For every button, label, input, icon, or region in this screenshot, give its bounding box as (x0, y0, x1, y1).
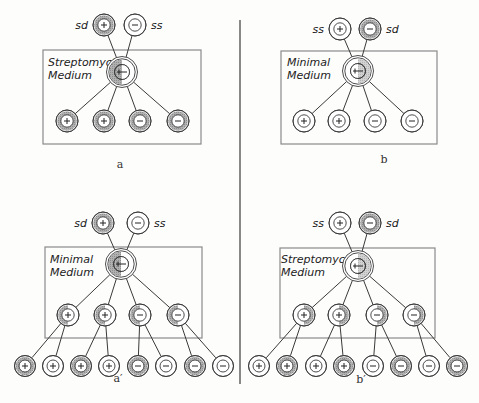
daughter-cell (293, 110, 315, 132)
parent-cell-sd (93, 14, 115, 36)
panel-label: a (117, 158, 124, 171)
lineage-line (108, 87, 117, 111)
strain-label-ss: ss (313, 23, 325, 36)
lineage-line (344, 233, 352, 252)
granddaughter-cell (213, 356, 234, 377)
granddaughter-cell (249, 356, 270, 377)
lineage-line (321, 325, 335, 356)
strain-label-sd: sd (386, 23, 400, 36)
strain-label-ss: ss (313, 217, 325, 230)
lineage-line (374, 326, 376, 355)
daughter-cell (129, 110, 151, 132)
genetics-cross-figure: StreptomycinMediumsdssaMinimalMediumsssd… (0, 0, 479, 403)
lineage-line (138, 326, 139, 355)
panel-label: b (380, 153, 387, 166)
lineage-line (126, 279, 136, 305)
daughter-cell (56, 110, 78, 132)
lineage-line (266, 323, 296, 358)
lineage-line (56, 326, 65, 356)
parent-cell-ss (124, 14, 146, 36)
daughter-cell (57, 304, 79, 326)
lineage-line (417, 326, 426, 356)
granddaughter-cell (15, 356, 36, 377)
granddaughter-cell (447, 356, 468, 377)
granddaughter-cell (306, 356, 327, 377)
lineage-line (126, 36, 132, 57)
lineage-line (363, 86, 371, 111)
daughter-cell (364, 110, 386, 132)
parent-cell-sd (359, 212, 381, 234)
strain-label-sd: sd (74, 217, 88, 230)
medium-label: MinimalMedium (50, 253, 94, 279)
panel-b-prime: StreptomycinMediumsssdb′ (249, 212, 468, 386)
lineage-line (340, 326, 343, 355)
strain-label-ss: ss (151, 19, 163, 32)
granddaughter-cell (277, 356, 298, 377)
medium-label: MinimalMedium (287, 56, 331, 82)
strain-label-ss: ss (154, 217, 166, 230)
panel-a-prime: MinimalMediumsdssa′ (15, 212, 234, 385)
parent-cell-ss (329, 212, 351, 234)
lineage-line (370, 276, 406, 308)
daughter-cell (366, 304, 388, 326)
lineage-line (127, 87, 136, 111)
strain-label-sd: sd (75, 19, 89, 32)
lineage-line (185, 323, 215, 358)
lineage-line (108, 35, 117, 57)
lineage-line (343, 280, 352, 304)
daughter-cell (293, 304, 315, 326)
zygote-cell (343, 56, 374, 87)
lineage-line (290, 325, 300, 355)
lineage-line (181, 325, 191, 355)
zygote-cell (343, 251, 374, 282)
lineage-line (108, 279, 116, 305)
daughter-cell (94, 304, 116, 326)
panel-b: MinimalMediumsssdb (281, 18, 437, 166)
panel-label: a′ (113, 372, 123, 385)
parent-cell-sd (359, 18, 381, 40)
parent-cell-ss (127, 212, 149, 234)
daughter-cell (93, 110, 115, 132)
lineage-line (312, 82, 347, 114)
granddaughter-cell (185, 356, 206, 377)
granddaughter-cell (43, 356, 64, 377)
daughter-cell (129, 304, 151, 326)
daughter-cell (167, 304, 189, 326)
lineage-line (344, 39, 352, 57)
strain-label-sd: sd (386, 217, 400, 230)
daughter-cell (328, 110, 350, 132)
lineage-line (343, 85, 353, 110)
lineage-line (369, 82, 404, 114)
daughter-cell (167, 110, 189, 132)
lineage-line (133, 274, 170, 307)
lineage-line (86, 325, 101, 356)
diagram-svg: StreptomycinMediumsdssaMinimalMediumsssd… (0, 0, 479, 403)
daughter-cell (328, 304, 350, 326)
granddaughter-cell (128, 356, 149, 377)
parent-cell-sd (92, 212, 114, 234)
granddaughter-cell (391, 356, 412, 377)
granddaughter-cell (156, 356, 177, 377)
lineage-line (76, 275, 110, 308)
daughter-cell (403, 304, 425, 326)
panel-label: b′ (356, 373, 366, 386)
lineage-line (382, 325, 397, 356)
zygote-cell (106, 249, 137, 280)
lineage-line (312, 276, 346, 307)
lineage-line (75, 82, 110, 113)
lineage-line (362, 40, 367, 57)
daughter-cell (401, 110, 423, 132)
zygote-cell (107, 57, 138, 88)
granddaughter-cell (334, 356, 355, 377)
lineage-line (134, 82, 170, 114)
panel-a: StreptomycinMediumsdssa (43, 14, 201, 171)
lineage-line (145, 325, 161, 356)
granddaughter-cell (71, 356, 92, 377)
panels: StreptomycinMediumsdssaMinimalMediumsssd… (15, 14, 468, 386)
granddaughter-cell (419, 356, 440, 377)
lineage-line (106, 326, 108, 355)
parent-cell-ss (329, 18, 351, 40)
lineage-line (364, 280, 373, 304)
